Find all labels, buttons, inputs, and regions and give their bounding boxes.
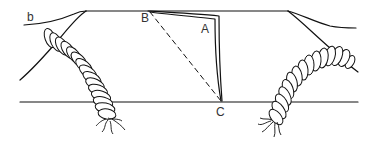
label-A: A (201, 22, 209, 36)
right-segmented-form (266, 45, 357, 127)
left-segmented-form (42, 27, 117, 121)
label-B: B (141, 11, 149, 25)
left-root-tendrils (96, 118, 125, 134)
label-C: C (216, 105, 225, 119)
dashed-line-b-c (150, 12, 221, 101)
diagram-canvas: b B A C (0, 0, 378, 153)
label-b: b (27, 10, 34, 24)
